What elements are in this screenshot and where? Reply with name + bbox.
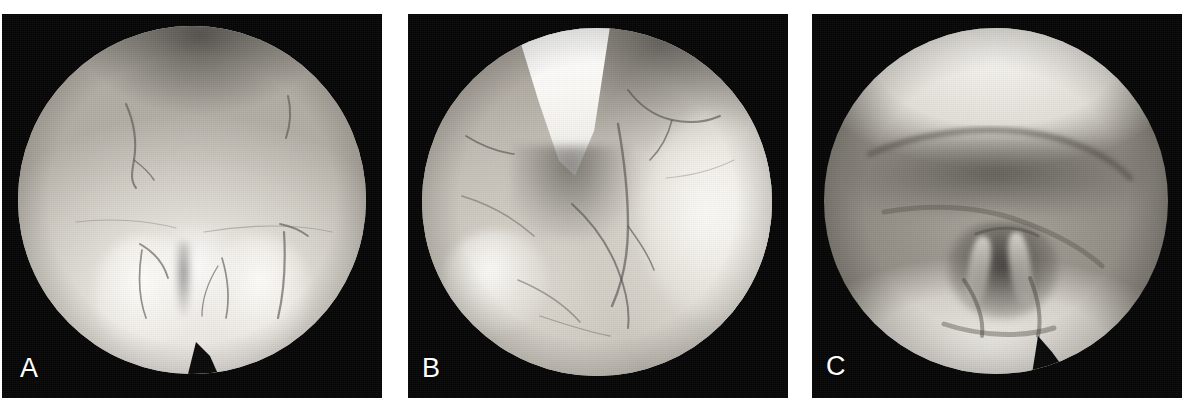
panel-label-b: B	[422, 355, 441, 382]
endoscopic-figure: A	[0, 0, 1190, 411]
vignette-c	[824, 28, 1168, 374]
endoscope-view-a	[18, 26, 366, 374]
endoscope-view-c	[824, 28, 1168, 374]
panel-c[interactable]: C	[812, 14, 1182, 398]
panel-a[interactable]: A	[2, 14, 382, 398]
panel-label-a: A	[20, 355, 39, 382]
panel-label-c: C	[826, 353, 846, 380]
panel-b[interactable]: B	[408, 14, 788, 398]
vignette-b	[422, 28, 772, 376]
vignette-a	[18, 26, 366, 374]
endoscope-view-b	[422, 28, 772, 376]
